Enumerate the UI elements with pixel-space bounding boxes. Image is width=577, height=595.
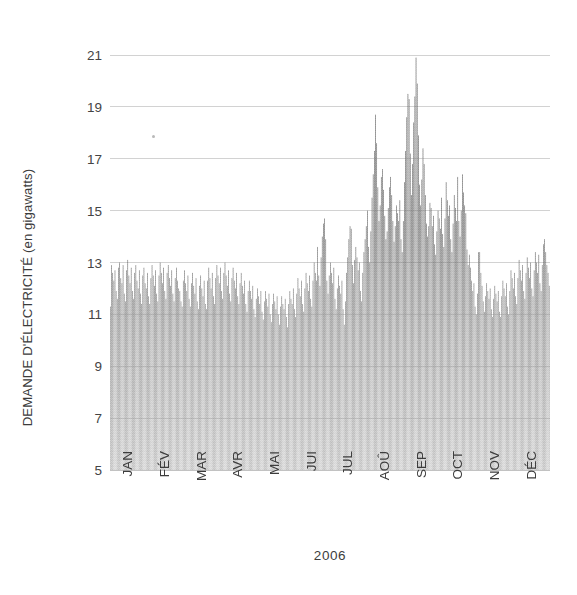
- scan-artifact-dot: [152, 135, 155, 138]
- x-axis-tick-label: OCT: [449, 451, 467, 511]
- y-axis-tick-label: 5: [56, 463, 102, 478]
- x-axis-title: 2006: [110, 548, 550, 563]
- x-axis-tick-label: JUL: [339, 451, 357, 511]
- x-axis-tick-label: NOV: [486, 451, 504, 511]
- y-axis-tick-label: 21: [56, 48, 102, 63]
- y-axis-tick-labels: 211917151311975: [56, 0, 102, 595]
- x-axis-tick-label: AVR: [229, 451, 247, 511]
- y-axis-tick-label: 13: [56, 255, 102, 270]
- y-axis-tick-label: 9: [56, 359, 102, 374]
- y-axis-tick-label: 19: [56, 99, 102, 114]
- x-axis-tick-label: JUI: [303, 451, 321, 511]
- y-axis-tick-label: 17: [56, 151, 102, 166]
- x-axis-tick-label: DÉC: [523, 451, 541, 511]
- x-axis-tick-labels: JANFÉVMARAVRMAIJUIJULAOÛSEPOCTNOVDÉC: [110, 472, 550, 532]
- y-axis-tick-label: 7: [56, 411, 102, 426]
- x-axis-tick-label: AOÛ: [376, 451, 394, 511]
- y-axis-tick-label: 11: [56, 307, 102, 322]
- x-axis-tick-label: JAN: [119, 451, 137, 511]
- y-axis-title: DEMANDE D'ÉLECTRICITÉ (en gigawatts): [0, 0, 56, 595]
- electricity-demand-chart: DEMANDE D'ÉLECTRICITÉ (en gigawatts) 211…: [0, 0, 577, 595]
- x-axis-tick-label: MAI: [266, 451, 284, 511]
- y-axis-title-text: DEMANDE D'ÉLECTRICITÉ (en gigawatts): [20, 169, 37, 426]
- y-axis-tick-label: 15: [56, 203, 102, 218]
- x-axis-tick-label: FÉV: [156, 451, 174, 511]
- plot-area: [110, 55, 550, 470]
- bar-series-canvas: [110, 55, 550, 470]
- x-axis-tick-label: MAR: [193, 451, 211, 511]
- x-axis-tick-label: SEP: [413, 451, 431, 511]
